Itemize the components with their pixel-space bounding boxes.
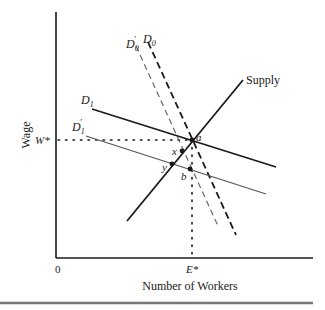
label-w-star: W* [35,134,50,146]
y-axis-title: Wage [19,121,33,148]
label-d1: D1 [80,93,94,109]
label-b: b [181,170,187,182]
x-axis-title: Number of Workers [142,279,238,293]
label-supply: Supply [246,73,280,87]
label-d1-prime: D1′ [71,117,85,136]
label-d0-prime: D0′ [125,34,139,53]
label-a: a [196,131,202,143]
labor-market-chart: Supply D0′ D0 D1 D1′ a x y b W* E* 0 Num… [0,0,325,310]
point-b [188,167,193,172]
label-x: x [171,145,177,157]
point-y [170,162,175,167]
curve-d1 [92,109,276,167]
label-d0: D0 [142,32,156,48]
label-y: y [161,161,167,173]
label-e-star: E* [185,263,199,275]
point-x [180,149,185,154]
label-origin: 0 [55,263,61,275]
point-a [190,138,195,143]
